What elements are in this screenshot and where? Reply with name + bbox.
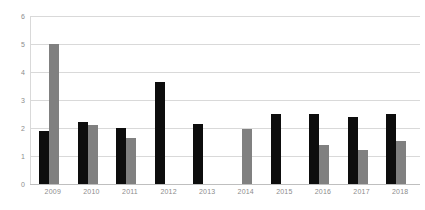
y-tick-label: 6	[21, 13, 25, 20]
x-axis-tick-labels: 2009201020112012201320142015201620172018	[30, 188, 420, 204]
x-tick-label: 2017	[343, 188, 381, 204]
x-tick-label: 2015	[266, 188, 304, 204]
y-tick-label: 2	[21, 125, 25, 132]
bar	[116, 128, 126, 184]
bar	[309, 114, 319, 184]
bar-group	[150, 16, 188, 184]
bar-group	[188, 16, 226, 184]
bar-group	[381, 16, 419, 184]
bar	[348, 117, 358, 184]
bar	[49, 44, 59, 184]
bar-group	[266, 16, 304, 184]
bar	[88, 125, 98, 184]
bar	[126, 138, 136, 184]
y-tick-label: 3	[21, 97, 25, 104]
x-tick-label: 2011	[111, 188, 149, 204]
bar	[358, 150, 368, 184]
x-tick-label: 2014	[227, 188, 265, 204]
bar-group	[73, 16, 111, 184]
bar-group	[111, 16, 149, 184]
bar	[242, 129, 252, 184]
gridline	[30, 184, 420, 185]
bar-group	[304, 16, 342, 184]
bar-group	[343, 16, 381, 184]
x-tick-label: 2013	[188, 188, 226, 204]
bar	[78, 122, 88, 184]
bar-chart: 0123456 20092010201120122013201420152016…	[0, 0, 425, 210]
bar-group	[34, 16, 72, 184]
y-tick-label: 0	[21, 181, 25, 188]
bar	[271, 114, 281, 184]
bar	[319, 145, 329, 184]
x-tick-label: 2012	[150, 188, 188, 204]
bar	[396, 141, 406, 184]
x-tick-label: 2018	[381, 188, 419, 204]
x-tick-label: 2009	[34, 188, 72, 204]
bar	[386, 114, 396, 184]
bar	[39, 131, 49, 184]
bar-groups	[30, 16, 420, 184]
bar	[193, 124, 203, 184]
bar	[155, 82, 165, 184]
y-tick-label: 5	[21, 41, 25, 48]
x-tick-label: 2010	[73, 188, 111, 204]
x-tick-label: 2016	[304, 188, 342, 204]
y-tick-label: 1	[21, 153, 25, 160]
bar-group	[227, 16, 265, 184]
y-tick-label: 4	[21, 69, 25, 76]
